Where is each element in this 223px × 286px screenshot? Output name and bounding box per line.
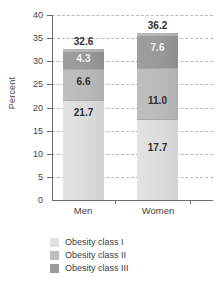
y-tick-15 (47, 131, 52, 132)
bar-women[interactable] (137, 33, 178, 200)
legend-swatch-class1-icon (50, 238, 59, 247)
x-tick-2 (190, 200, 191, 204)
y-tick-40 (47, 15, 52, 16)
x-tick-1 (115, 200, 116, 204)
legend: Obesity class I Obesity class II Obesity… (50, 236, 129, 275)
bar-total-label-men: 32.6 (63, 36, 104, 47)
segment-highlight (63, 49, 104, 52)
legend-swatch-class2-icon (50, 251, 59, 260)
y-tick-label-0: 0 (19, 195, 43, 205)
x-axis-label-men: Men (53, 205, 113, 216)
legend-item-class1[interactable]: Obesity class I (50, 236, 129, 248)
segment-divider (63, 100, 104, 101)
bar-value-label-women-class3: 7.6 (137, 42, 178, 53)
y-tick-label-25: 25 (19, 79, 43, 89)
y-tick-label-10: 10 (19, 149, 43, 159)
y-tick-label-40: 40 (19, 10, 43, 20)
legend-label-class1: Obesity class I (65, 237, 124, 247)
y-tick-label-20: 20 (19, 103, 43, 113)
y-tick-30 (47, 61, 52, 62)
stacked-bar-chart: Percent 40 35 30 25 20 15 10 5 0 (0, 0, 223, 286)
x-axis-line (52, 200, 213, 201)
bar-segment-women-class1[interactable] (137, 119, 178, 200)
segment-divider (137, 68, 178, 69)
y-tick-label-5: 5 (19, 172, 43, 182)
y-tick-20 (47, 108, 52, 109)
bar-value-label-women-class1: 17.7 (137, 142, 178, 153)
bar-segment-women-class2[interactable] (137, 68, 178, 119)
bar-value-label-men-class3: 4.3 (63, 53, 104, 64)
bar-total-label-women: 36.2 (137, 20, 178, 31)
legend-label-class2: Obesity class II (65, 250, 126, 260)
segment-divider (137, 119, 178, 120)
y-tick-35 (47, 38, 52, 39)
y-tick-label-35: 35 (19, 33, 43, 43)
segment-divider (63, 69, 104, 70)
y-tick-5 (47, 177, 52, 178)
y-tick-10 (47, 154, 52, 155)
y-axis-line (52, 15, 53, 201)
y-tick-label-30: 30 (19, 56, 43, 66)
y-tick-25 (47, 84, 52, 85)
legend-swatch-class3-icon (50, 264, 59, 273)
bar-value-label-women-class2: 11.0 (137, 95, 178, 106)
legend-item-class3[interactable]: Obesity class III (50, 262, 129, 274)
legend-label-class3: Obesity class III (65, 263, 129, 273)
gridline-40 (52, 15, 213, 16)
y-axis-title: Percent (7, 63, 17, 123)
y-tick-label-15: 15 (19, 126, 43, 136)
segment-highlight (137, 33, 178, 36)
x-axis-label-women: Women (128, 205, 188, 216)
bar-value-label-men-class1: 21.7 (63, 107, 104, 118)
bar-men[interactable] (63, 49, 104, 200)
bar-value-label-men-class2: 6.6 (63, 76, 104, 87)
legend-item-class2[interactable]: Obesity class II (50, 249, 129, 261)
